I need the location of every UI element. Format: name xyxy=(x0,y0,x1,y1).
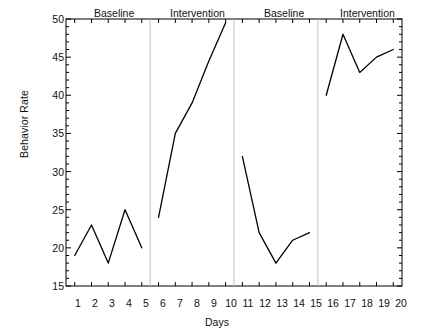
phase-line-2 xyxy=(159,23,226,218)
phase-line-4 xyxy=(326,34,393,95)
phase-line-1 xyxy=(75,210,142,263)
plot-area xyxy=(0,0,434,336)
phase-divider-lines xyxy=(150,19,318,286)
phase-line-3 xyxy=(242,156,309,263)
behavior-rate-chart: Behavior Rate Days 50 45 40 35 30 25 20 … xyxy=(0,0,434,336)
